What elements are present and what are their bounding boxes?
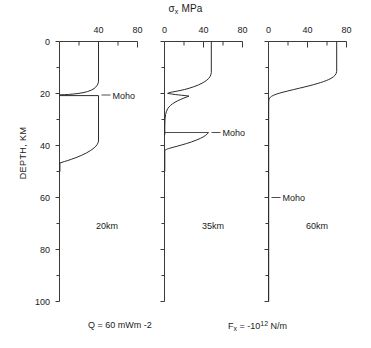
panel2-stress-curve bbox=[165, 42, 212, 135]
panel1-ytick-100: 100 bbox=[35, 297, 50, 307]
panel2-xtick-0: 0 bbox=[162, 25, 167, 35]
plot-canvas: 40 80 0 20 40 60 80 100 Moho 0 40 80 bbox=[0, 0, 371, 348]
panel1-ytick-40: 40 bbox=[40, 141, 50, 151]
panel-tag-20km: 20km bbox=[96, 221, 118, 231]
panel3-xtick-40: 40 bbox=[302, 25, 312, 35]
panel1-moho-label: Moho bbox=[113, 91, 136, 101]
panel-20km: 40 80 0 20 40 60 80 100 Moho bbox=[35, 25, 143, 307]
panel3-xtick-80: 80 bbox=[341, 25, 351, 35]
panel2-moho-label: Moho bbox=[223, 128, 246, 138]
footnote-force: Fx = -1012 N/m bbox=[228, 320, 287, 332]
panel3-y-ticks bbox=[265, 42, 269, 302]
footnote-heat-flow: Q = 60 mWm -2 bbox=[88, 320, 152, 330]
panel-tag-35km: 35km bbox=[202, 221, 224, 231]
panel3-x-ticks bbox=[288, 42, 347, 48]
panel1-ytick-0: 0 bbox=[45, 37, 50, 47]
panel2-xtick-80: 80 bbox=[237, 25, 247, 35]
panel3-moho-label: Moho bbox=[283, 193, 306, 203]
panel1-ytick-20: 20 bbox=[40, 89, 50, 99]
panel1-y-ticks bbox=[56, 42, 60, 302]
panel2-x-ticks bbox=[184, 42, 243, 48]
panel1-ytick-80: 80 bbox=[40, 245, 50, 255]
panel1-xtick-80: 80 bbox=[132, 25, 142, 35]
panel1-ytick-60: 60 bbox=[40, 193, 50, 203]
panel1-x-ticks bbox=[79, 42, 138, 48]
panel1-stress-curve bbox=[60, 42, 99, 172]
panel2-stress-curve-lower bbox=[165, 133, 209, 172]
force-exponent: 12 bbox=[260, 320, 268, 327]
panel-60km: 0 40 80 Moho bbox=[265, 25, 352, 302]
force-units: N/m bbox=[268, 321, 287, 331]
panel1-xtick-40: 40 bbox=[93, 25, 103, 35]
panel2-y-ticks bbox=[161, 42, 165, 302]
panel-tag-60km: 60km bbox=[306, 221, 328, 231]
panel3-xtick-0: 0 bbox=[266, 25, 271, 35]
force-mid: = -10 bbox=[237, 321, 260, 331]
panel-35km: 0 40 80 Moho bbox=[161, 25, 248, 302]
panel2-xtick-40: 40 bbox=[198, 25, 208, 35]
stress-depth-figure: σx MPa DEPTH, KM 40 80 0 20 40 60 80 100 bbox=[0, 0, 371, 348]
panel3-stress-curve bbox=[269, 42, 337, 302]
